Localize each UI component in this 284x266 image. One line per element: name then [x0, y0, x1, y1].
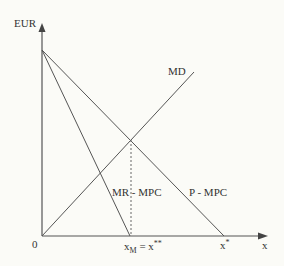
xstar-tick-label: x*: [220, 238, 230, 251]
p-mpc-line: [42, 50, 224, 236]
origin-label: 0: [32, 238, 38, 250]
md-label: MD: [168, 65, 186, 77]
mr-mpc-label: MR - MPC: [112, 186, 162, 198]
xm-tick-label: xM = x**: [124, 239, 162, 255]
x-axis-label: x: [262, 239, 268, 251]
y-axis-label: EUR: [14, 17, 37, 29]
p-mpc-label: P - MPC: [189, 186, 227, 198]
economics-diagram: EUR x 0 MD MR - MPC P - MPC xM = x** x*: [0, 0, 284, 266]
y-axis-arrow-icon: [39, 23, 46, 32]
mr-mpc-line: [42, 50, 130, 236]
